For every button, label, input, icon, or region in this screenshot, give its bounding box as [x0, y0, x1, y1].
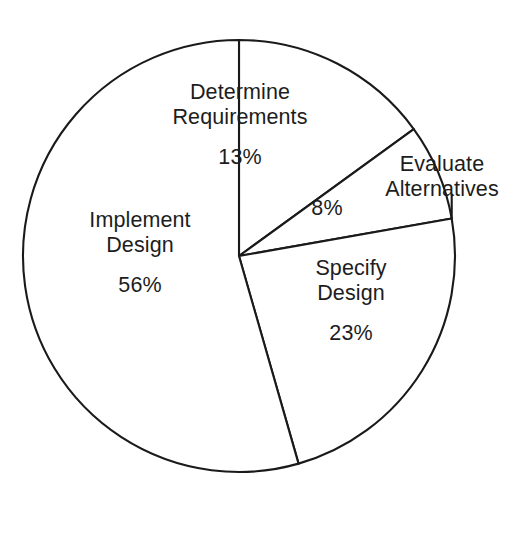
slice-value-determine-requirements: 13%: [172, 145, 307, 170]
label-spacer: [172, 130, 307, 145]
slice-value-evaluate-alternatives-wrap: 8%: [311, 196, 342, 221]
slice-label-line1: Implement: [89, 208, 190, 233]
slice-label-line1: Evaluate: [385, 152, 499, 177]
slice-label-specify-design: Specify Design 23%: [315, 256, 386, 346]
label-spacer: [89, 258, 190, 273]
slice-label-line2: Requirements: [172, 105, 307, 130]
slice-label-evaluate-alternatives: Evaluate Alternatives: [385, 152, 499, 202]
slice-value-specify-design: 23%: [315, 321, 386, 346]
slice-value-evaluate-alternatives: 8%: [311, 196, 342, 221]
slice-label-line1: Determine: [172, 80, 307, 105]
pie-chart: Determine Requirements 13% Evaluate Alte…: [0, 0, 519, 533]
slice-label-line2: Alternatives: [385, 177, 499, 202]
slice-label-determine-requirements: Determine Requirements 13%: [172, 80, 307, 170]
label-spacer: [315, 306, 386, 321]
slice-value-implement-design: 56%: [89, 273, 190, 298]
slice-label-line2: Design: [89, 233, 190, 258]
slice-label-implement-design: Implement Design 56%: [89, 208, 190, 298]
slice-label-line2: Design: [315, 281, 386, 306]
slice-label-line1: Specify: [315, 256, 386, 281]
